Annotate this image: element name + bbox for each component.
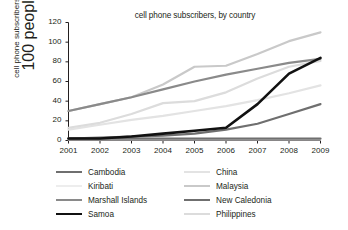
x-tick-label: 2006 [211, 146, 241, 155]
legend-label: Samoa [88, 210, 114, 219]
legend-label: Philippines [216, 210, 256, 219]
legend-label: Kiribati [88, 182, 113, 191]
x-tick-label: 2002 [85, 146, 115, 155]
y-tick-label: 80 [36, 56, 62, 65]
x-tick-label: 2001 [54, 146, 84, 155]
legend-swatch-icon [184, 213, 210, 215]
legend-swatch-icon [184, 185, 210, 187]
legend-swatch-icon [56, 185, 82, 187]
series-line-malaysia [69, 32, 321, 111]
legend-label: Malaysia [216, 182, 248, 191]
x-tick-label: 2007 [243, 146, 273, 155]
legend-swatch-icon [184, 171, 210, 173]
legend-label: Cambodia [88, 168, 125, 177]
y-tick-label: 120 [36, 17, 62, 26]
legend-swatch-icon [56, 199, 82, 201]
legend-swatch-icon [56, 213, 82, 215]
legend-item-malaysia[interactable]: Malaysia [184, 179, 306, 193]
y-tick-label: 100 [36, 37, 62, 46]
legend-item-cambodia[interactable]: Cambodia [56, 165, 178, 179]
x-tick-label: 2005 [180, 146, 210, 155]
legend-item-kiribati[interactable]: Kiribati [56, 179, 178, 193]
y-tick-label: 0 [36, 135, 62, 144]
x-tick-label: 2003 [117, 146, 147, 155]
chart-legend: CambodiaChinaKiribatiMalaysiaMarshall Is… [56, 165, 306, 221]
chart-figure: cell phone subscribers, by country cell … [0, 0, 348, 230]
series-line-china [69, 85, 321, 129]
legend-swatch-icon [184, 199, 210, 201]
y-tick-label: 60 [36, 76, 62, 85]
x-tick-label: 2008 [274, 146, 304, 155]
x-tick-label: 2004 [148, 146, 178, 155]
legend-item-china[interactable]: China [184, 165, 306, 179]
x-tick-label: 2009 [306, 146, 336, 155]
legend-item-philippines[interactable]: Philippines [184, 207, 306, 221]
legend-label: New Caledonia [216, 196, 272, 205]
legend-item-samoa[interactable]: Samoa [56, 207, 178, 221]
legend-label: China [216, 168, 237, 177]
legend-label: Marshall Islands [88, 196, 147, 205]
y-tick-label: 40 [36, 96, 62, 105]
legend-swatch-icon [56, 171, 82, 173]
legend-item-new-caledonia[interactable]: New Caledonia [184, 193, 306, 207]
legend-item-marshall-islands[interactable]: Marshall Islands [56, 193, 178, 207]
y-tick-label: 20 [36, 115, 62, 124]
